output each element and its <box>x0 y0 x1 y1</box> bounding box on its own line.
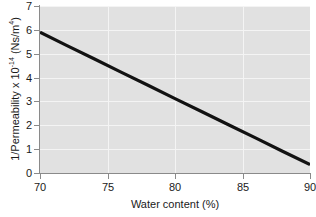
y-axis-label-units-open: (Ns/m <box>9 25 21 57</box>
y-axis-label-exponent: -14 <box>8 57 15 67</box>
x-tick-label: 90 <box>295 182 316 193</box>
x-tick-label: 80 <box>160 182 190 193</box>
y-tick-mark <box>34 173 39 174</box>
x-tick-mark <box>175 174 176 179</box>
y-tick-mark <box>34 78 39 79</box>
x-tick-label: 75 <box>93 182 123 193</box>
x-tick-label: 70 <box>25 182 55 193</box>
x-tick-label: 85 <box>228 182 258 193</box>
x-axis-label: Water content (%) <box>40 198 310 210</box>
y-tick-mark <box>34 6 39 7</box>
y-tick-mark <box>34 101 39 102</box>
chart-figure: 01234567 7075808590 Water content (%) 1/… <box>0 0 316 217</box>
y-axis-label-units-exponent: 4 <box>8 21 15 25</box>
x-tick-mark <box>108 174 109 179</box>
data-series-line <box>40 6 310 173</box>
y-axis-label: 1/Permeability x 10-14 (Ns/m4) <box>9 1 21 177</box>
x-tick-mark <box>243 174 244 179</box>
y-tick-mark <box>34 125 39 126</box>
y-tick-mark <box>34 30 39 31</box>
plot-area <box>40 6 310 173</box>
x-tick-mark <box>310 174 311 179</box>
y-axis-label-units-close: ) <box>9 17 21 21</box>
y-axis-line <box>39 5 40 174</box>
x-tick-mark <box>40 174 41 179</box>
y-tick-mark <box>34 54 39 55</box>
y-axis-label-main: 1/Permeability x 10 <box>9 67 21 161</box>
y-tick-mark <box>34 149 39 150</box>
